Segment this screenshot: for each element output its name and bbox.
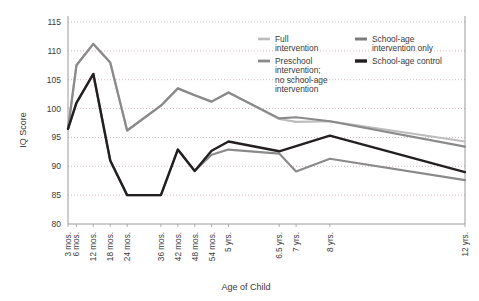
x-tick-label: 6 mos. bbox=[72, 232, 81, 257]
x-tick-label: 54 mos. bbox=[208, 232, 217, 261]
x-tick-label: 36 mos. bbox=[157, 232, 166, 261]
legend-item: School-ageintervention only bbox=[355, 34, 434, 53]
legend-label: intervention bbox=[275, 43, 319, 53]
y-tick-label: 100 bbox=[47, 104, 61, 114]
y-axis-title: IQ Score bbox=[18, 112, 28, 148]
iq-score-line-chart: 80859095100105110115 3 mos.6 mos.12 mos.… bbox=[0, 0, 479, 301]
legend-label: intervention bbox=[275, 84, 319, 94]
x-tick-label: 18 mos. bbox=[106, 232, 115, 261]
y-tick-label: 115 bbox=[47, 17, 61, 27]
y-tick-label: 90 bbox=[52, 161, 62, 171]
x-axis-tick-labels: 3 mos.6 mos.12 mos.18 mos.24 mos.36 mos.… bbox=[64, 224, 470, 261]
chart-container: 80859095100105110115 3 mos.6 mos.12 mos.… bbox=[0, 0, 479, 301]
legend-item: Preschoolintervention;no school-ageinter… bbox=[258, 56, 328, 94]
legend-item: School-age control bbox=[355, 56, 442, 66]
data-series-group bbox=[68, 44, 465, 195]
legend-label: School-age control bbox=[372, 56, 442, 66]
x-tick-label: 42 mos. bbox=[174, 232, 183, 261]
x-axis-title: Age of Child bbox=[221, 282, 270, 292]
x-tick-label: 5 yrs. bbox=[224, 232, 233, 252]
x-tick-label: 7 yrs. bbox=[292, 232, 301, 252]
legend: FullinterventionPreschoolintervention;no… bbox=[258, 34, 442, 94]
x-tick-label: 12 yrs. bbox=[461, 232, 470, 257]
x-tick-label: 6.5 yrs. bbox=[275, 232, 284, 259]
legend-item: Fullintervention bbox=[258, 34, 319, 53]
x-tick-label: 24 mos. bbox=[123, 232, 132, 261]
y-tick-label: 110 bbox=[47, 46, 61, 56]
y-tick-label: 95 bbox=[52, 132, 62, 142]
y-axis-tick-labels: 80859095100105110115 bbox=[47, 17, 61, 229]
x-tick-label: 12 mos. bbox=[89, 232, 98, 261]
y-tick-label: 105 bbox=[47, 75, 61, 85]
x-tick-label: 48 mos. bbox=[191, 232, 200, 261]
y-tick-label: 80 bbox=[52, 219, 62, 229]
legend-label: intervention only bbox=[372, 43, 434, 53]
x-tick-label: 8 yrs. bbox=[326, 232, 335, 252]
y-tick-label: 85 bbox=[52, 190, 62, 200]
